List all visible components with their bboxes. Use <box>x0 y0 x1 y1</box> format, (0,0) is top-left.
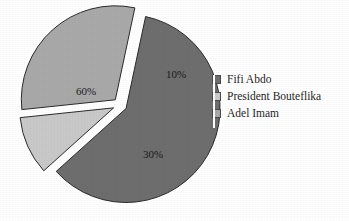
legend-item-label: Adel Imam <box>227 107 279 120</box>
legend-item-label: President Bouteflika <box>227 90 321 103</box>
legend-swatch-icon <box>212 109 221 118</box>
chart-legend: Fifi AbdoPresident BouteflikaAdel Imam <box>212 71 349 122</box>
legend-item[interactable]: Fifi Abdo <box>212 71 349 87</box>
pie-slice-value-label: 30% <box>143 148 163 160</box>
pie-slice-value-label: 60% <box>76 85 96 97</box>
legend-item[interactable]: Adel Imam <box>212 105 349 121</box>
legend-swatch-icon <box>212 75 221 84</box>
legend-swatch-icon <box>212 92 221 101</box>
pie-slice-value-label: 10% <box>166 68 186 80</box>
pie-slices-group <box>20 6 220 203</box>
pie-chart-canvas: 60%10%30% <box>0 0 224 221</box>
pie-chart: 60%10%30% Fifi AbdoPresident BouteflikaA… <box>0 0 349 221</box>
legend-item-label: Fifi Abdo <box>227 73 271 86</box>
legend-item[interactable]: President Bouteflika <box>212 88 349 104</box>
legend-swatch-fill <box>213 109 215 128</box>
